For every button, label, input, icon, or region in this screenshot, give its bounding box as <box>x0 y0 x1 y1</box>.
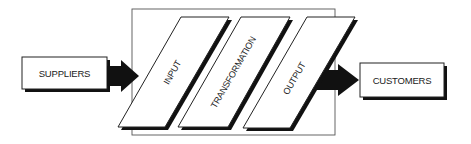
customers-node: CUSTOMERS <box>360 63 447 100</box>
customers-label: CUSTOMERS <box>373 75 432 86</box>
suppliers-node: SUPPLIERS <box>22 57 110 92</box>
suppliers-label: SUPPLIERS <box>39 68 91 79</box>
process-diagram: SUPPLIERS INPUT TRANSFORMATION OUTPUT CU… <box>0 0 471 144</box>
arrow-suppliers-to-input <box>107 60 139 92</box>
